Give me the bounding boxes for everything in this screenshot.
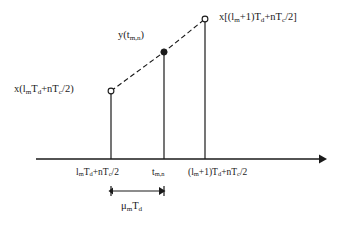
marker-interpolated-sample-filled-circle: [161, 49, 167, 55]
figure-canvas: [0, 0, 343, 228]
label-left-sample-value: x(lmTd+nTc/2): [14, 84, 74, 96]
marker-right-sample-open-circle: [202, 16, 208, 22]
label-right-sample-value: x[(lm+1)Td+nTc/2]: [219, 12, 297, 24]
label-interpolated-sample-value: y(tm,n): [118, 30, 144, 42]
axis-tick-label-mid: tm,n: [152, 168, 165, 178]
axis-tick-label-left: lmTd+nTc/2: [76, 168, 119, 178]
time-axis-arrowhead: [319, 155, 327, 164]
marker-left-sample-open-circle: [108, 88, 114, 94]
axis-tick-label-right: (lm+1)Td+nTc/2: [188, 168, 247, 178]
interpolation-figure: x(lmTd+nTc/2) y(tm,n) x[(lm+1)Td+nTc/2] …: [0, 0, 343, 228]
measurement-label: μmTd: [121, 201, 142, 213]
